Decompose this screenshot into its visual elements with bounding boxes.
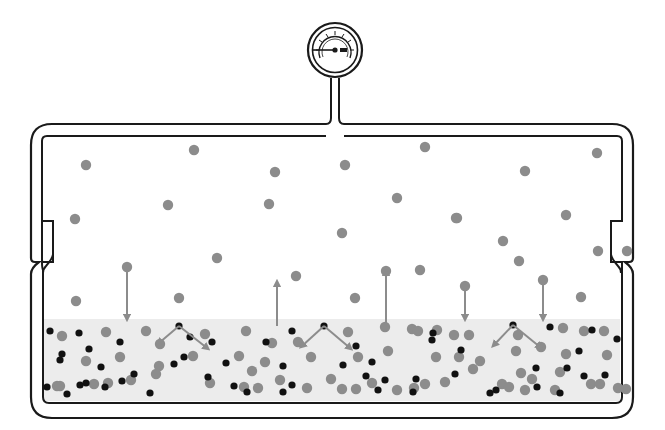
solvent-particle bbox=[475, 356, 485, 366]
solvent-particle bbox=[520, 385, 530, 395]
pressure-gauge bbox=[308, 23, 362, 77]
solute-particle bbox=[130, 370, 137, 377]
solute-particle bbox=[492, 386, 499, 393]
solvent-particle bbox=[353, 352, 363, 362]
solute-particle bbox=[288, 381, 295, 388]
solvent-particle bbox=[413, 326, 423, 336]
solvent-particle bbox=[343, 327, 353, 337]
solvent-particle bbox=[326, 374, 336, 384]
vapor-particle bbox=[576, 292, 586, 302]
solvent-particle bbox=[561, 349, 571, 359]
solvent-particle bbox=[454, 352, 464, 362]
solute-particle bbox=[575, 347, 582, 354]
solvent-particle bbox=[468, 364, 478, 374]
liquid-region bbox=[44, 319, 620, 401]
vapor-particle bbox=[592, 148, 602, 158]
vapor-particle bbox=[270, 167, 280, 177]
solvent-particle bbox=[383, 346, 393, 356]
solvent-particle bbox=[302, 383, 312, 393]
solvent-particle bbox=[449, 330, 459, 340]
solute-particle bbox=[362, 372, 369, 379]
solute-particle bbox=[279, 362, 286, 369]
vapor-particles bbox=[70, 142, 632, 306]
solvent-particle bbox=[586, 379, 596, 389]
vapor-particle bbox=[337, 228, 347, 238]
solute-particle bbox=[429, 329, 436, 336]
solute-particle bbox=[43, 383, 50, 390]
solvent-particle bbox=[260, 357, 270, 367]
solvent-particle bbox=[579, 326, 589, 336]
solute-particle bbox=[601, 371, 608, 378]
solute-particle bbox=[288, 327, 295, 334]
solute-particle bbox=[230, 382, 237, 389]
solvent-particle bbox=[504, 382, 514, 392]
solute-particle bbox=[381, 376, 388, 383]
solvent-particle bbox=[188, 351, 198, 361]
solute-particle bbox=[412, 375, 419, 382]
solvent-particle bbox=[151, 369, 161, 379]
solvent-particle bbox=[420, 379, 430, 389]
solvent-particle bbox=[351, 384, 361, 394]
solute-particle bbox=[222, 359, 229, 366]
solute-particle bbox=[262, 338, 269, 345]
solvent-particle bbox=[392, 385, 402, 395]
vapor-particle bbox=[350, 293, 360, 303]
solvent-particle bbox=[536, 342, 546, 352]
vapor-particle bbox=[622, 246, 632, 256]
solute-particle bbox=[101, 383, 108, 390]
solute-particle bbox=[97, 363, 104, 370]
solute-particle bbox=[533, 383, 540, 390]
solute-particle bbox=[204, 373, 211, 380]
solute-particle bbox=[451, 370, 458, 377]
vapor-particle bbox=[561, 210, 571, 220]
right-notch bbox=[611, 221, 622, 273]
solute-particle bbox=[208, 338, 215, 345]
solute-particle bbox=[118, 377, 125, 384]
solute-particle bbox=[580, 372, 587, 379]
solvent-particle bbox=[293, 337, 303, 347]
vapor-particle bbox=[212, 253, 222, 263]
solvent-particle bbox=[602, 350, 612, 360]
vapor-particle bbox=[81, 160, 91, 170]
solvent-particle bbox=[57, 331, 67, 341]
solvent-particle bbox=[337, 384, 347, 394]
vapor-particle bbox=[163, 200, 173, 210]
solute-particle bbox=[588, 326, 595, 333]
solute-particle bbox=[75, 329, 82, 336]
solute-particle bbox=[243, 388, 250, 395]
gauge-pivot bbox=[332, 47, 337, 52]
solute-particle bbox=[546, 323, 553, 330]
vapor-particle bbox=[514, 256, 524, 266]
solvent-particle bbox=[599, 326, 609, 336]
vapor-particle bbox=[189, 145, 199, 155]
solute-particle bbox=[58, 350, 65, 357]
solute-particle bbox=[46, 327, 53, 334]
solute-particle bbox=[279, 388, 286, 395]
solvent-particle bbox=[511, 346, 521, 356]
solvent-particle bbox=[55, 381, 65, 391]
solute-particle bbox=[352, 342, 359, 349]
solvent-particle bbox=[200, 329, 210, 339]
solvent-particle bbox=[241, 326, 251, 336]
vapor-particle bbox=[593, 246, 603, 256]
gauge-stem bbox=[326, 78, 344, 124]
solute-particle bbox=[146, 389, 153, 396]
vapor-particle bbox=[71, 296, 81, 306]
solute-particle bbox=[85, 345, 92, 352]
solvent-particle bbox=[101, 327, 111, 337]
vapor-particle bbox=[291, 271, 301, 281]
solvent-particle bbox=[613, 383, 623, 393]
vapor-particle bbox=[420, 142, 430, 152]
vapor-pressure-diagram bbox=[0, 0, 665, 430]
solute-particle bbox=[180, 353, 187, 360]
solute-particle bbox=[613, 335, 620, 342]
vapor-particle bbox=[264, 199, 274, 209]
solvent-particle bbox=[115, 352, 125, 362]
solute-particle bbox=[563, 364, 570, 371]
solvent-particle bbox=[464, 330, 474, 340]
solvent-particle bbox=[306, 352, 316, 362]
solute-particle bbox=[532, 364, 539, 371]
solute-particle bbox=[63, 390, 70, 397]
solute-particle bbox=[170, 360, 177, 367]
vapor-particle bbox=[70, 214, 80, 224]
